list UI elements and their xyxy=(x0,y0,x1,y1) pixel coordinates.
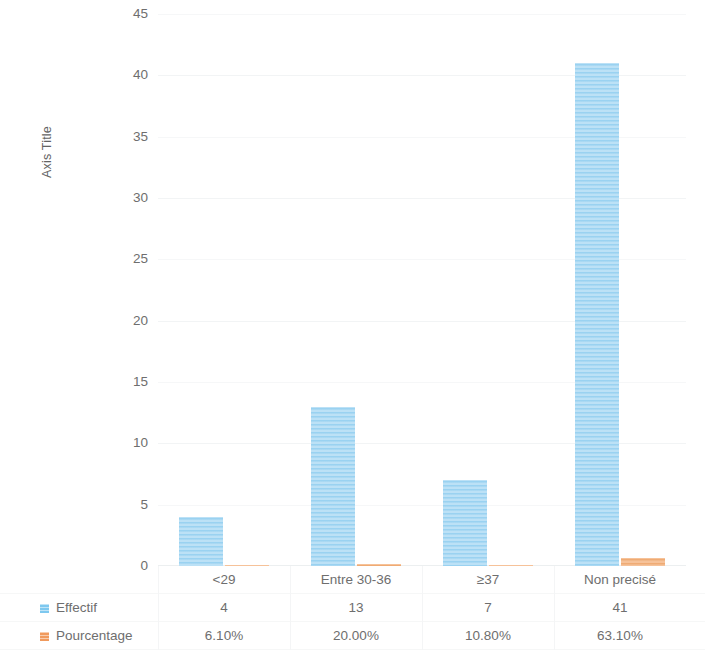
table-column-separator xyxy=(158,566,159,650)
y-axis-tick-label: 20 xyxy=(106,314,148,328)
y-axis-tick-label: 10 xyxy=(106,436,148,450)
y-axis-tick-label: 30 xyxy=(106,191,148,205)
legend-swatch-icon xyxy=(40,604,49,613)
bar-chart: Axis Title 454035302520151050 <29Entre 3… xyxy=(0,0,705,651)
bar-effectif[interactable] xyxy=(443,480,487,566)
table-row: Pourcentage 6.10%20.00%10.80%63.10% xyxy=(0,622,705,650)
table-row: Effectif 413741 xyxy=(0,594,705,622)
y-axis-tick-label: 40 xyxy=(106,68,148,82)
table-column-separator xyxy=(554,566,555,650)
table-column-separator xyxy=(290,566,291,650)
y-axis-tick-label: 25 xyxy=(106,252,148,266)
table-cell-pourcentage: 10.80% xyxy=(422,622,554,650)
bar-effectif[interactable] xyxy=(575,63,619,566)
table-row: <29Entre 30-36≥37Non precisé xyxy=(0,566,705,594)
bar-pourcentage[interactable] xyxy=(621,558,665,566)
table-category-label: ≥37 xyxy=(422,566,554,594)
table-cell-effectif: 4 xyxy=(158,594,290,622)
y-axis-tick-label: 15 xyxy=(106,375,148,389)
table-column-separator xyxy=(422,566,423,650)
legend-label-effectif: Effectif xyxy=(56,594,97,622)
legend-item-effectif[interactable]: Effectif xyxy=(40,594,97,622)
y-axis-tick-label: 5 xyxy=(106,498,148,512)
table-cell-effectif: 41 xyxy=(554,594,686,622)
table-cell-effectif: 7 xyxy=(422,594,554,622)
table-category-label: <29 xyxy=(158,566,290,594)
data-table: <29Entre 30-36≥37Non precisé Effectif 41… xyxy=(0,566,705,651)
bar-effectif[interactable] xyxy=(179,517,223,566)
y-axis-title: Axis Title xyxy=(40,82,60,222)
y-axis-title-label: Axis Title xyxy=(40,82,54,222)
table-cell-pourcentage: 20.00% xyxy=(290,622,422,650)
table-cell-effectif: 13 xyxy=(290,594,422,622)
table-cell-pourcentage: 63.10% xyxy=(554,622,686,650)
table-category-label: Entre 30-36 xyxy=(290,566,422,594)
legend-swatch-icon xyxy=(40,632,49,641)
legend-item-pourcentage[interactable]: Pourcentage xyxy=(40,622,133,650)
gridline xyxy=(158,14,686,15)
y-axis-tick-label: 45 xyxy=(106,7,148,21)
table-category-label: Non precisé xyxy=(554,566,686,594)
plot-area xyxy=(158,14,686,566)
y-axis-tick-labels: 454035302520151050 xyxy=(106,0,148,580)
legend-label-pourcentage: Pourcentage xyxy=(56,622,133,650)
bar-effectif[interactable] xyxy=(311,407,355,566)
table-cell-pourcentage: 6.10% xyxy=(158,622,290,650)
y-axis-tick-label: 35 xyxy=(106,130,148,144)
